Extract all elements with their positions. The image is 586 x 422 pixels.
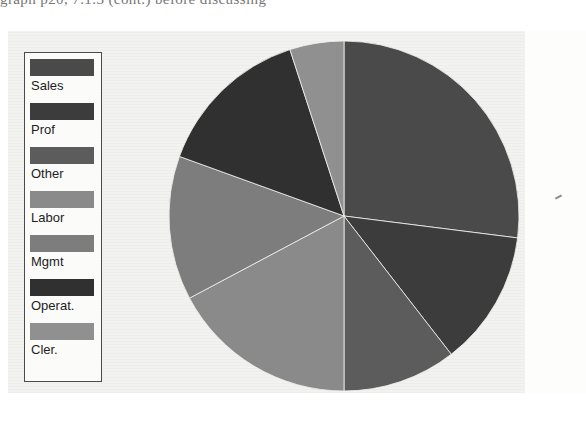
legend-label-operat: Operat. xyxy=(30,296,96,316)
legend-item-operat[interactable]: Operat. xyxy=(30,279,96,323)
legend-item-cler[interactable]: Cler. xyxy=(30,323,96,367)
legend-item-prof[interactable]: Prof xyxy=(30,103,96,147)
legend-swatch-mgmt xyxy=(30,235,94,252)
legend-swatch-prof xyxy=(30,103,94,120)
legend-item-other[interactable]: Other xyxy=(30,147,96,191)
legend-item-sales[interactable]: Sales xyxy=(30,59,96,103)
legend-label-prof: Prof xyxy=(30,120,96,140)
pie-legend: Sales Prof Other Labor Mgmt Operat. Cler… xyxy=(24,52,102,382)
figure-right-margin xyxy=(525,31,586,393)
legend-item-mgmt[interactable]: Mgmt xyxy=(30,235,96,279)
legend-swatch-labor xyxy=(30,191,94,208)
pie-chart xyxy=(168,40,520,392)
legend-swatch-cler xyxy=(30,323,94,340)
legend-label-other: Other xyxy=(30,164,96,184)
pie-chart-svg xyxy=(168,40,520,392)
pie-slice-group xyxy=(169,41,519,391)
legend-swatch-other xyxy=(30,147,94,164)
legend-swatch-operat xyxy=(30,279,94,296)
legend-label-labor: Labor xyxy=(30,208,96,228)
legend-label-cler: Cler. xyxy=(30,340,96,360)
scanned-text-line: graph p20, 7.1.3 (cont.) before discussi… xyxy=(0,0,586,9)
legend-item-labor[interactable]: Labor xyxy=(30,191,96,235)
legend-swatch-sales xyxy=(30,59,94,76)
pie-slice-sales[interactable] xyxy=(344,41,519,238)
legend-label-mgmt: Mgmt xyxy=(30,252,96,272)
legend-label-sales: Sales xyxy=(30,76,96,96)
